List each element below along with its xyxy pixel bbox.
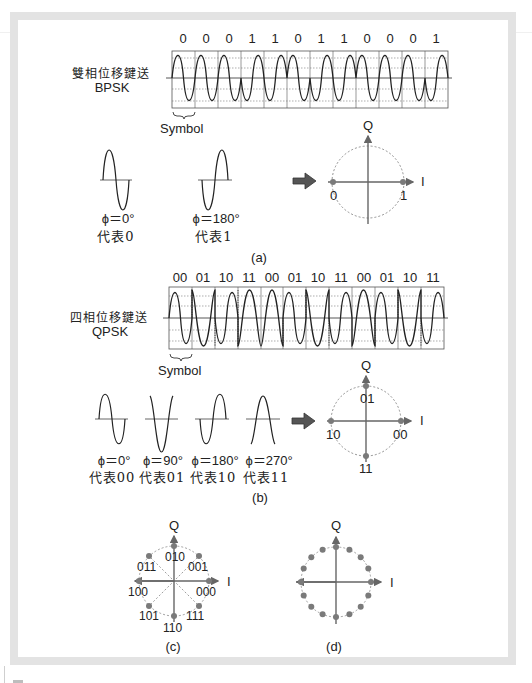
symbol-brace bbox=[173, 112, 195, 119]
bit-label: 0 bbox=[225, 31, 232, 46]
arrow-right-icon bbox=[293, 173, 316, 189]
phase-label: ϕ＝180° bbox=[192, 208, 239, 227]
qpsk-waveform-grid bbox=[163, 287, 448, 349]
i-axis-label: I bbox=[421, 174, 425, 189]
q-axis-label: Q bbox=[361, 358, 371, 373]
bpsk-phase-180-icon bbox=[198, 150, 232, 210]
bpsk-title: BPSK bbox=[95, 80, 130, 95]
point-label: 000 bbox=[196, 585, 216, 599]
bit-label: 1 bbox=[340, 31, 347, 46]
qpsk-phase-180-icon bbox=[195, 394, 229, 444]
bit-label: 01 bbox=[196, 270, 210, 285]
bit-label: 1 bbox=[271, 31, 278, 46]
phase-meaning: 代表1 bbox=[195, 226, 232, 245]
bit-label: 11 bbox=[426, 270, 440, 285]
point-label: 101 bbox=[139, 609, 159, 623]
point-label: 100 bbox=[128, 585, 148, 599]
point-label: 00 bbox=[393, 427, 407, 442]
bit-label: 00 bbox=[173, 270, 187, 285]
point-label: 010 bbox=[165, 550, 185, 564]
symbol-label: Symbol bbox=[160, 121, 203, 136]
qpsk-phase-270-icon bbox=[246, 396, 280, 444]
bit-label: 0 bbox=[409, 31, 416, 46]
point-label: 111 bbox=[186, 609, 204, 623]
i-axis-label: I bbox=[420, 413, 424, 428]
bit-label: 00 bbox=[265, 270, 279, 285]
bit-label: 0 bbox=[386, 31, 393, 46]
bpsk-phase-0-icon bbox=[100, 150, 132, 210]
caption-a: (a) bbox=[251, 250, 267, 265]
qpsk-title-cjk: 四相位移鍵送 bbox=[70, 308, 148, 325]
arrow-right-icon bbox=[292, 413, 315, 429]
psk-diagram bbox=[0, 0, 532, 683]
bpsk-title-cjk: 雙相位移鍵送 bbox=[72, 64, 150, 81]
caption-c: (c) bbox=[165, 639, 180, 654]
bit-label: 0 bbox=[294, 31, 301, 46]
phase-meaning: 代表0 bbox=[97, 226, 134, 245]
bpsk-constellation bbox=[328, 136, 413, 224]
i-axis-label: I bbox=[390, 575, 394, 590]
point-label: 110 bbox=[163, 621, 182, 635]
phase-label: ϕ＝0° bbox=[102, 208, 135, 227]
bit-label: 1 bbox=[248, 31, 255, 46]
phase-meaning: 代表00 bbox=[89, 467, 136, 486]
bit-label: 1 bbox=[432, 31, 439, 46]
point-label: 011 bbox=[137, 560, 156, 574]
i-axis-label: I bbox=[227, 574, 231, 589]
bit-label: 01 bbox=[288, 270, 302, 285]
point-label: 001 bbox=[188, 560, 208, 574]
phase-meaning: 代表01 bbox=[139, 467, 186, 486]
bit-label: 0 bbox=[363, 31, 370, 46]
caption-b: (b) bbox=[252, 490, 268, 505]
q-axis-label: Q bbox=[363, 118, 373, 133]
bpsk-waveform-grid bbox=[166, 51, 452, 108]
q-axis-label: Q bbox=[331, 518, 341, 533]
psk16-constellation bbox=[296, 537, 381, 624]
bit-label: 00 bbox=[357, 270, 371, 285]
point-label: 1 bbox=[400, 188, 407, 203]
point-label: 10 bbox=[326, 427, 340, 442]
symbol-brace bbox=[170, 354, 192, 361]
q-axis-label: Q bbox=[169, 518, 179, 533]
phase-meaning: 代表10 bbox=[190, 467, 237, 486]
qpsk-constellation bbox=[327, 376, 411, 462]
point-label: 0 bbox=[330, 188, 337, 203]
bit-label: 1 bbox=[317, 31, 324, 46]
symbol-label: Symbol bbox=[158, 363, 201, 378]
bit-label: 0 bbox=[202, 31, 209, 46]
bit-label: 0 bbox=[179, 31, 186, 46]
point-label: 01 bbox=[360, 391, 374, 406]
qpsk-phase-0-icon bbox=[95, 394, 128, 444]
bit-label: 10 bbox=[219, 270, 233, 285]
qpsk-phase-90-icon bbox=[145, 396, 178, 452]
bit-label: 11 bbox=[334, 270, 348, 285]
bit-label: 01 bbox=[380, 270, 394, 285]
bit-label: 11 bbox=[242, 270, 256, 285]
point-label: 11 bbox=[359, 461, 373, 476]
bit-label: 10 bbox=[403, 270, 417, 285]
bit-label: 10 bbox=[311, 270, 325, 285]
phase-meaning: 代表11 bbox=[243, 467, 290, 486]
caption-d: (d) bbox=[326, 639, 342, 654]
qpsk-title: QPSK bbox=[92, 324, 128, 339]
